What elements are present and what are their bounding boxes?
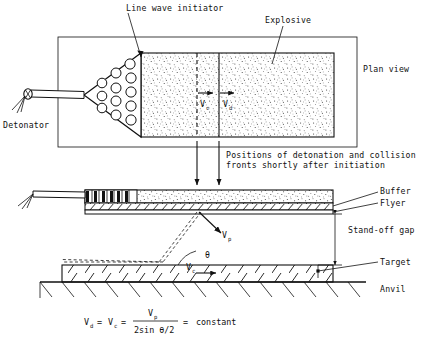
formula-equals-2: = <box>121 317 126 327</box>
formula-vd-sub: d <box>90 323 93 329</box>
leader-flyer <box>333 203 378 212</box>
label-anvil: Anvil <box>380 284 406 294</box>
label-flyer: Flyer <box>380 198 406 208</box>
initiator-segments-side <box>85 190 137 203</box>
flyer-bend-dashed-lower <box>163 212 201 262</box>
initiator-cavities <box>97 59 136 125</box>
vp-arrow-side <box>199 212 221 233</box>
flyer-bend-dashed-upper <box>159 212 197 262</box>
front-position-transfer-arrows <box>197 141 219 185</box>
caption-positions-line2: fronts shortly after initiation <box>226 160 385 170</box>
governing-equation: V d = V c = V p 2sin θ/2 = constant <box>84 308 236 335</box>
side-view-group: V p θ V c <box>0 0 415 298</box>
formula-vc-sub: c <box>114 323 117 329</box>
label-explosive: Explosive <box>265 15 311 25</box>
detonator-lead-tube-side <box>33 191 85 198</box>
anvil-ground-hatching <box>40 282 360 297</box>
formula-numerator-v: V <box>148 308 153 318</box>
flyer-plate-side <box>85 210 333 214</box>
caption-positions-line1: Positions of detonation and collision <box>226 150 416 160</box>
formula-denominator: 2sin θ/2 <box>134 325 174 335</box>
vp-subscript-side: p <box>228 236 232 243</box>
leader-target-dot <box>316 269 319 272</box>
label-buffer: Buffer <box>380 186 411 196</box>
label-target: Target <box>380 257 411 267</box>
vd-label-plan: V <box>223 99 228 109</box>
explosive-block-plan <box>141 53 334 137</box>
vd-subscript-plan: d <box>229 105 232 111</box>
leader-buffer <box>333 192 378 206</box>
label-line-wave-initiator: Line wave initiator <box>126 3 223 13</box>
formula-equals-1: = <box>97 317 102 327</box>
formula-vd: V <box>84 317 89 327</box>
detonator-lead-tube <box>31 90 84 99</box>
leader-line-wave-initiator <box>128 13 141 57</box>
formula-vc: V <box>108 317 113 327</box>
theta-label: θ <box>205 250 210 260</box>
formula-numerator-sub: p <box>154 314 158 321</box>
vc-subscript-side: c <box>192 268 195 274</box>
detonator-lead-wires-side <box>18 194 33 209</box>
label-standoff-gap: Stand-off gap <box>348 225 415 235</box>
explosive-welding-diagram: V c V d Line wave initiator Explosive Pl… <box>0 0 437 345</box>
figure-root: V c V d Line wave initiator Explosive Pl… <box>0 0 437 345</box>
formula-equals-3: = <box>183 317 188 327</box>
vp-label-side: V <box>222 230 227 240</box>
vc-label-side: V <box>186 262 191 272</box>
vc-label-plan: V <box>200 99 205 109</box>
detonator-lead-wires <box>12 96 25 113</box>
label-plan-view: Plan view <box>363 64 409 74</box>
formula-result: constant <box>196 317 236 327</box>
plan-view-group: V c V d Line wave initiator Explosive Pl… <box>3 3 409 147</box>
buffer-layer-side <box>85 203 333 210</box>
label-detonator: Detonator <box>3 120 49 130</box>
vc-subscript-plan: c <box>206 105 209 111</box>
